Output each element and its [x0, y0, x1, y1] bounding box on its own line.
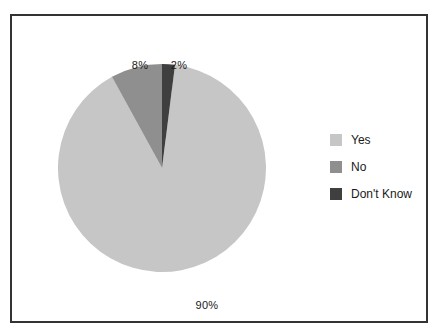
chart-frame: 8% 2% 90% Yes No Don't Know	[10, 14, 428, 323]
legend-swatch-yes	[330, 134, 342, 146]
slice-label-dont-know: 2%	[157, 59, 201, 71]
legend-label-yes: Yes	[351, 133, 371, 147]
slice-label-yes: 90%	[185, 299, 229, 311]
slice-label-no: 8%	[118, 59, 162, 71]
legend-label-no: No	[351, 160, 366, 174]
legend-item-no: No	[330, 160, 412, 174]
legend-item-yes: Yes	[330, 133, 412, 147]
legend-swatch-no	[330, 161, 342, 173]
legend-item-dont-know: Don't Know	[330, 187, 412, 201]
legend-swatch-dont-know	[330, 188, 342, 200]
legend: Yes No Don't Know	[330, 133, 412, 214]
legend-label-dont-know: Don't Know	[351, 187, 412, 201]
chart-window: 8% 2% 90% Yes No Don't Know	[0, 0, 440, 334]
